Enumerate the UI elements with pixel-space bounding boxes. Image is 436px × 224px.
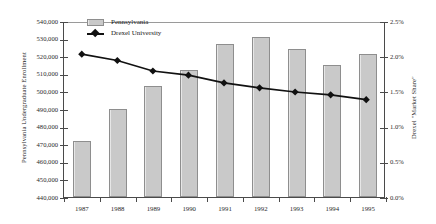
y-axis-left-tick — [60, 110, 68, 111]
y-axis-left-tick — [60, 22, 68, 23]
chart-legend: Pennsylvania Drexel University — [87, 17, 161, 39]
x-axis-tick — [136, 197, 137, 202]
y-axis-right-tick-label: 1.0% — [390, 124, 404, 131]
y-axis-right-tick — [380, 22, 388, 23]
y-axis-left-tick-label: 520,000 — [37, 54, 58, 61]
x-axis-tick-label: 1987 — [75, 205, 89, 212]
bar — [180, 70, 198, 197]
y-axis-left-tick — [60, 180, 68, 181]
bar — [73, 141, 91, 197]
legend-item-pennsylvania: Pennsylvania — [87, 17, 161, 28]
legend-swatch-line-icon — [87, 30, 104, 37]
legend-label-drexel-university: Drexel University — [111, 28, 161, 39]
y-axis-left-tick — [60, 57, 68, 58]
bar — [144, 86, 162, 197]
y-axis-right-tick — [380, 92, 388, 93]
x-axis-tick-label: 1995 — [361, 205, 375, 212]
x-axis-tick-label: 1990 — [182, 205, 196, 212]
y-axis-left-tick-label: 510,000 — [37, 71, 58, 78]
x-axis-tick — [279, 197, 280, 202]
y-axis-right-title: Drexel "Market Share" — [410, 33, 417, 183]
y-axis-left-tick-label: 440,000 — [37, 195, 58, 202]
bar — [216, 44, 234, 197]
y-axis-left-tick-label: 450,000 — [37, 177, 58, 184]
line-marker-diamond-icon — [78, 51, 85, 58]
y-axis-left-tick — [60, 163, 68, 164]
bar — [359, 54, 377, 197]
x-axis-tick — [64, 197, 65, 202]
y-axis-left-tick-label: 540,000 — [37, 19, 58, 26]
legend-label-pennsylvania: Pennsylvania — [111, 17, 148, 28]
y-axis-right-tick — [380, 163, 388, 164]
y-axis-right-tick-label: 1.5% — [390, 89, 404, 96]
line-marker-diamond-icon — [149, 67, 156, 74]
x-axis-tick-label: 1991 — [218, 205, 232, 212]
y-axis-left-tick — [60, 145, 68, 146]
x-axis-tick — [243, 197, 244, 202]
y-axis-left-tick — [60, 128, 68, 129]
x-axis-tick — [350, 197, 351, 202]
y-axis-right-tick-label: 2.5% — [390, 19, 404, 26]
legend-swatch-bar-icon — [87, 19, 104, 26]
bar — [323, 65, 341, 197]
y-axis-right-tick-label: 0.0% — [390, 195, 404, 202]
y-axis-right-tick-label: 2.0% — [390, 54, 404, 61]
y-axis-left-tick-label: 530,000 — [37, 36, 58, 43]
y-axis-left-tick — [60, 40, 68, 41]
y-axis-left-tick — [60, 75, 68, 76]
y-axis-right-tick — [380, 57, 388, 58]
y-axis-left-tick — [60, 92, 68, 93]
x-axis-tick-label: 1993 — [290, 205, 304, 212]
bar — [288, 49, 306, 197]
y-axis-left-tick-label: 460,000 — [37, 159, 58, 166]
bar — [252, 37, 270, 197]
y-axis-right-tick-label: 0.5% — [390, 159, 404, 166]
x-axis-tick-label: 1989 — [147, 205, 161, 212]
y-axis-left-tick-label: 490,000 — [37, 107, 58, 114]
plot-area: 440,000450,000460,000470,000480,000490,0… — [63, 22, 385, 198]
chart-figure: Pennsylvania Undergraduate Enrollment Dr… — [0, 0, 436, 224]
x-axis-tick — [171, 197, 172, 202]
y-axis-left-tick-label: 480,000 — [37, 124, 58, 131]
y-axis-right-tick — [380, 128, 388, 129]
x-axis-tick — [386, 197, 387, 202]
y-axis-left-tick-label: 470,000 — [37, 142, 58, 149]
y-axis-left-title: Pennsylvania Undergraduate Enrollment — [20, 33, 27, 183]
x-axis-tick — [207, 197, 208, 202]
x-axis-tick — [100, 197, 101, 202]
x-axis-tick-label: 1988 — [111, 205, 125, 212]
x-axis-tick-label: 1992 — [254, 205, 268, 212]
bar — [109, 109, 127, 197]
y-axis-left-tick-label: 500,000 — [37, 89, 58, 96]
x-axis-tick — [314, 197, 315, 202]
x-axis-tick-label: 1994 — [326, 205, 340, 212]
legend-item-drexel-university: Drexel University — [87, 28, 161, 39]
line-marker-diamond-icon — [114, 57, 121, 64]
